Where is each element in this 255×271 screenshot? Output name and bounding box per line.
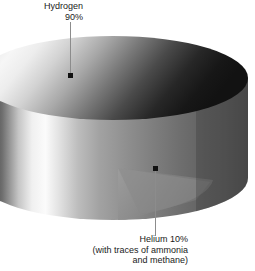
hydrogen-marker-dot (68, 73, 73, 78)
helium-label-line-3: and methane) (28, 255, 188, 266)
helium-marker-dot (153, 166, 158, 171)
helium-callout-label: Helium 10% (with traces of ammonia and m… (28, 234, 188, 266)
hydrogen-label-line-2: 90% (0, 12, 83, 23)
atmosphere-composition-figure (0, 0, 255, 271)
helium-label-line-1: Helium 10% (28, 234, 188, 245)
hydrogen-label-line-1: Hydrogen (0, 1, 83, 12)
hydrogen-callout-label: Hydrogen 90% (0, 1, 83, 22)
helium-label-line-2: (with traces of ammonia (28, 245, 188, 256)
